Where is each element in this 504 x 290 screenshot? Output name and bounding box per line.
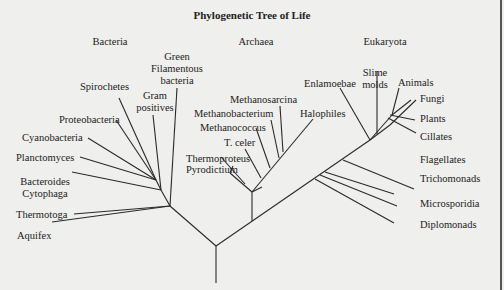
leaf-label-proteobacteria: Proteobacteria — [59, 114, 120, 125]
leaf-label-thermotoga: Thermotoga — [16, 209, 68, 220]
leaf-label-green-filamentous-line1: Green — [164, 51, 190, 62]
leaf-label-green-filamentous-line2: Filamentous — [151, 63, 203, 74]
domain-label-bacteria: Bacteria — [93, 36, 128, 47]
leaf-label-cyanobacteria: Cyanobacteria — [22, 132, 83, 143]
leaf-label-cillates: Cillates — [420, 131, 452, 142]
leaf-label-t-celer: T. celer — [224, 137, 256, 148]
leaf-label-gram-positives-line2: positives — [136, 102, 173, 113]
leaf-label-thermoproteus: Thermoproteus — [186, 153, 250, 164]
diagram-title: Phylogenetic Tree of Life — [194, 9, 311, 21]
leaf-label-methanococcus: Methanococcus — [200, 122, 266, 133]
leaf-label-planctomyces: Planctomyces — [16, 152, 74, 163]
leaf-label-enlamoebae: Enlamoebae — [304, 78, 356, 89]
leaf-label-methanosarcina: Methanosarcina — [230, 94, 297, 105]
leaf-label-spirochetes: Spirochetes — [80, 81, 129, 92]
leaf-label-methanobacterium: Methanobacterium — [194, 108, 273, 119]
domain-label-eukaryota: Eukaryota — [363, 36, 406, 47]
leaf-label-flagellates: Flagellates — [420, 154, 466, 165]
leaf-label-green-filamentous-line3: bacteria — [160, 75, 194, 86]
leaf-label-trichomonads: Trichomonads — [420, 173, 480, 184]
leaf-label-fungi: Fungi — [420, 93, 445, 104]
leaf-label-animals: Animals — [398, 77, 434, 88]
leaf-label-gram-positives-line1: Gram — [143, 90, 167, 101]
leaf-label-diplomonads: Diplomonads — [420, 219, 477, 230]
leaf-label-halophiles: Halophiles — [300, 108, 346, 119]
leaf-label-slime-molds-line1: Slime — [363, 67, 388, 78]
leaf-label-cytophaga: Cytophaga — [22, 188, 68, 199]
phylogenetic-tree: Phylogenetic Tree of Life Bacteria Archa… — [0, 0, 504, 290]
leaf-label-bacteroides: Bacteroides — [20, 176, 70, 187]
leaf-label-pyrodictium: Pyrodictium — [186, 164, 238, 175]
leaf-label-plants: Plants — [420, 113, 446, 124]
domain-label-archaea: Archaea — [239, 36, 274, 47]
leaf-label-slime-molds-line2: molds — [362, 79, 388, 90]
leaf-label-aquifex: Aquifex — [17, 230, 52, 241]
leaf-label-microsporidia: Microsporidia — [420, 198, 480, 209]
